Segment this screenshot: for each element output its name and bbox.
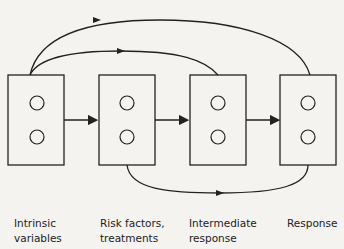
edge-risk-response [127, 165, 308, 193]
node-response [280, 75, 336, 165]
label-intermediate: Intermediate response [189, 216, 257, 246]
node-risk [99, 75, 155, 165]
node-intrinsic-circle-2 [30, 130, 44, 144]
diagram-canvas [0, 0, 344, 249]
node-risk-circle-2 [120, 130, 134, 144]
edge-intrinsic-response [30, 20, 310, 75]
node-intermediate-circle-1 [211, 96, 225, 110]
edge-risk-response-arrowhead [216, 190, 224, 196]
node-response-circle-2 [301, 130, 315, 144]
edge-intrinsic-intermediate [30, 51, 218, 75]
edge-intrinsic-response-arrowhead [93, 17, 101, 23]
node-risk-circle-1 [120, 96, 134, 110]
node-response-circle-1 [301, 96, 315, 110]
label-risk: Risk factors, treatments [100, 216, 165, 246]
node-intermediate [190, 75, 246, 165]
edge-intrinsic-intermediate-arrowhead [117, 48, 125, 54]
node-intermediate-circle-2 [211, 130, 225, 144]
label-response: Response [287, 216, 337, 231]
node-intrinsic-circle-1 [30, 96, 44, 110]
node-intrinsic [8, 75, 64, 165]
label-intrinsic: Intrinsic variables [14, 216, 62, 246]
